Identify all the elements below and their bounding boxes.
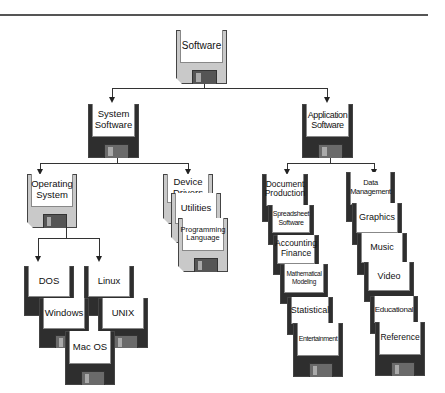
node-label: Statistical <box>291 297 330 324</box>
node-label: Data Management <box>350 172 391 205</box>
node-label: Spreadsheet Software <box>272 205 311 233</box>
node-label: DOS <box>28 266 70 297</box>
node-label: System Software <box>92 104 135 137</box>
connector <box>38 238 100 239</box>
node-label: Software <box>180 30 223 63</box>
node-label: Operating System <box>31 174 73 207</box>
node-programming-language[interactable]: Programming Language <box>178 218 228 272</box>
node-operating-system[interactable]: Operating System <box>27 174 77 228</box>
node-label: Entertainment <box>297 323 339 356</box>
node-label: UNIX <box>102 298 144 329</box>
node-software[interactable]: Software <box>176 30 227 84</box>
node-entertainment[interactable]: Entertainment <box>293 323 343 377</box>
node-reference[interactable]: Reference <box>375 322 425 376</box>
node-label: Accounting Finance <box>277 235 316 264</box>
connector <box>38 238 39 258</box>
arrow-icon <box>109 97 115 103</box>
node-label: Music <box>361 233 403 263</box>
node-label: Programming Language <box>182 218 224 251</box>
node-label: Linux <box>88 266 130 297</box>
node-label: Mac OS <box>69 331 111 364</box>
arrow-icon <box>35 256 41 262</box>
connector <box>99 238 100 258</box>
node-label: Video <box>368 262 410 291</box>
connector <box>112 88 328 89</box>
node-application-software[interactable]: Application Software <box>302 104 353 158</box>
node-label: Mathematical Modeling <box>284 264 324 293</box>
node-label: Windows <box>43 298 85 329</box>
node-mac-os[interactable]: Mac OS <box>65 331 115 385</box>
top-rule <box>0 14 428 16</box>
node-label: Document Production <box>266 174 305 206</box>
node-label: Application Software <box>306 104 349 137</box>
connector <box>40 163 189 164</box>
node-label: Graphics <box>356 203 398 233</box>
node-label: Reference <box>379 322 421 355</box>
node-system-software[interactable]: System Software <box>88 104 139 158</box>
node-label: Educational <box>374 296 414 323</box>
arrow-icon <box>96 256 102 262</box>
arrow-icon <box>324 97 330 103</box>
connector <box>287 163 374 164</box>
